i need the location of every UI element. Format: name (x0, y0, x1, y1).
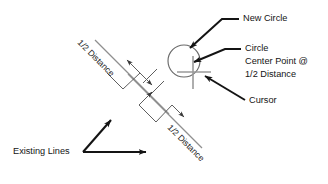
diagram-svg: New Circle Circle Center Point @ 1/2 Dis… (0, 0, 328, 184)
label-cursor: Cursor (249, 95, 277, 105)
leader-existing-lines-upper (83, 120, 111, 152)
leader-cursor (205, 76, 245, 100)
label-new-circle: New Circle (243, 13, 287, 23)
label-existing-lines: Existing Lines (13, 146, 70, 156)
leader-existing-lines (83, 120, 146, 152)
leader-circle-center (194, 49, 241, 62)
label-circle-center-line1: Circle (245, 43, 268, 53)
label-circle-center-line3: 1/2 Distance (245, 69, 296, 79)
leader-new-circle-path (190, 19, 239, 48)
dimension-upper-arrow-out (127, 60, 140, 73)
dimension-upper-arrow-in (140, 73, 152, 85)
label-half-distance-lower: 1/2 Distance (166, 122, 207, 163)
label-circle-center-line2: Center Point @ (245, 56, 308, 66)
leader-circle-center-path (194, 49, 241, 62)
diagram-canvas: New Circle Circle Center Point @ 1/2 Dis… (0, 0, 328, 184)
midpoint-tick-lower (150, 81, 164, 95)
existing-lines-group (95, 40, 202, 148)
leader-cursor-path (205, 76, 245, 100)
leader-new-circle (190, 19, 239, 48)
existing-line-lower (128, 74, 202, 148)
dimension-lower-arrow-in (172, 105, 184, 117)
midpoint-tick-upper (143, 69, 157, 83)
label-half-distance-upper: 1/2 Distance (76, 37, 117, 78)
existing-line-upper (95, 40, 169, 114)
dimension-lower-arrow-out (139, 92, 152, 105)
